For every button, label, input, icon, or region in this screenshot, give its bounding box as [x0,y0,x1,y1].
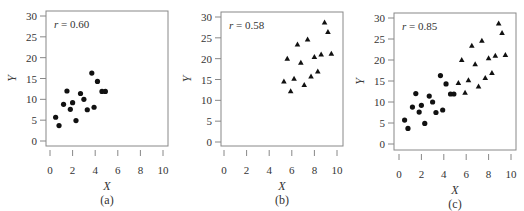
y-axis-label: Y [353,77,367,85]
plot-frame [46,11,168,146]
circle-marker [419,103,424,108]
circle-marker [78,91,83,96]
panel-caption: (b) [275,193,289,207]
circle-marker [430,99,435,104]
circle-marker [410,104,415,109]
panel-caption: (a) [100,193,113,207]
circle-marker [440,107,445,112]
triangle-marker [479,38,485,43]
triangle-marker [305,37,311,42]
triangle-marker [503,52,509,57]
x-tick-label: 0 [396,168,402,180]
y-tick-label: 10 [201,94,213,106]
scatter-panel-c: 0510152025300246810XY(c)r = 0.85 [353,12,517,211]
y-tick-label: 20 [374,54,386,66]
circle-marker [70,100,75,105]
triangle-marker [456,80,462,85]
y-tick-label: 15 [374,75,386,87]
y-tick-label: 15 [201,74,213,86]
triangle-marker [318,52,324,57]
circle-marker [433,110,438,115]
circle-marker [427,94,432,99]
triangle-marker [284,56,290,61]
triangle-marker [298,60,304,65]
x-tick-label: 2 [70,164,76,176]
y-tick-label: 10 [374,96,386,108]
triangle-marker [288,88,294,93]
y-tick-label: 25 [26,31,38,43]
triangle-marker [325,29,331,34]
x-tick-label: 10 [506,168,518,180]
triangle-marker [315,69,321,74]
y-tick-label: 5 [380,117,386,129]
x-tick-label: 6 [289,164,295,176]
x-axis-label: X [277,179,286,193]
circle-marker [451,91,456,96]
y-tick-label: 30 [374,12,386,24]
triangle-marker [499,30,505,35]
y-tick-label: 30 [26,10,38,22]
circle-marker [95,79,100,84]
y-tick-label: 5 [32,114,38,126]
x-tick-label: 6 [115,164,121,176]
x-tick-label: 6 [463,168,469,180]
x-tick-label: 4 [441,168,447,180]
x-tick-label: 4 [92,164,98,176]
triangle-marker [466,77,472,82]
y-tick-label: 0 [32,135,38,147]
y-tick-label: 25 [374,33,386,45]
x-tick-label: 8 [138,164,144,176]
x-tick-label: 0 [221,164,227,176]
y-tick-label: 30 [201,11,213,23]
triangle-marker [295,42,301,47]
triangle-marker [462,90,468,95]
x-axis-label: X [102,179,111,193]
correlation-annotation: r = 0.85 [402,20,438,32]
scatter-panel-a: 0510152025300246810XY(a)r = 0.60 [5,10,169,207]
x-tick-label: 4 [266,164,272,176]
x-tick-label: 2 [419,168,425,180]
triangle-marker [308,74,314,79]
triangle-marker [476,83,482,88]
y-tick-label: 0 [380,138,386,150]
x-tick-label: 0 [47,164,53,176]
circle-marker [413,91,418,96]
y-tick-label: 5 [207,115,213,127]
triangle-marker [322,19,328,24]
circle-marker [56,123,61,128]
triangle-marker [482,75,488,80]
triangle-marker [472,61,478,66]
panel-caption: (c) [448,197,461,211]
x-tick-label: 10 [158,164,170,176]
scatter-figure: 0510152025300246810XY(a)r = 0.6005101520… [0,0,524,211]
y-axis-label: Y [180,74,194,82]
triangle-marker [312,54,318,59]
correlation-annotation: r = 0.58 [229,19,265,31]
triangle-marker [469,43,475,48]
circle-marker [89,70,94,75]
circle-marker [438,73,443,78]
circle-marker [64,88,69,93]
circle-marker [68,107,73,112]
circle-marker [81,97,86,102]
triangle-marker [459,57,465,62]
scatter-panel-b: 0510152025300246810XY(b)r = 0.58 [180,11,343,207]
circle-marker [103,89,108,94]
circle-marker [417,109,422,114]
circle-marker [85,107,90,112]
triangle-marker [301,82,307,87]
plot-frame [394,13,516,150]
circle-marker [422,121,427,126]
plot-frame [221,12,343,146]
triangle-marker [493,53,499,58]
circle-marker [53,115,58,120]
x-tick-label: 10 [332,164,344,176]
triangle-marker [496,20,502,25]
triangle-marker [281,79,287,84]
y-tick-label: 10 [26,93,38,105]
x-axis-label: X [450,183,459,197]
circle-marker [91,105,96,110]
circle-marker [402,117,407,122]
triangle-marker [291,76,297,81]
y-tick-label: 25 [201,32,213,44]
